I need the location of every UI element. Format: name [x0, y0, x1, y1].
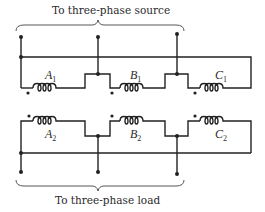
- polarity-dot-c1: [193, 91, 196, 94]
- coil-label-b2: B2: [130, 127, 141, 143]
- source-caption: To three-phase source: [52, 4, 170, 16]
- source-terminals: [19, 32, 179, 88]
- load-caption: To three-phase load: [55, 194, 160, 206]
- polarity-dot-a1: [26, 91, 29, 94]
- coil-label-a2: A2: [45, 127, 56, 143]
- polarity-dot-c2: [193, 114, 196, 117]
- coil-label-a1: A1: [45, 68, 56, 84]
- coil-label-c1: C1: [215, 68, 227, 84]
- coil-label-c2: C2: [215, 127, 227, 143]
- polarity-dot-a2: [27, 114, 30, 117]
- load-brace: [16, 180, 184, 191]
- load-terminals: [19, 134, 179, 176]
- three-phase-transformer-diagram: [0, 0, 265, 212]
- polarity-dot-b1: [110, 91, 113, 94]
- polarity-dot-b2: [110, 114, 113, 117]
- coil-label-b1: B1: [130, 68, 141, 84]
- source-brace: [16, 20, 184, 31]
